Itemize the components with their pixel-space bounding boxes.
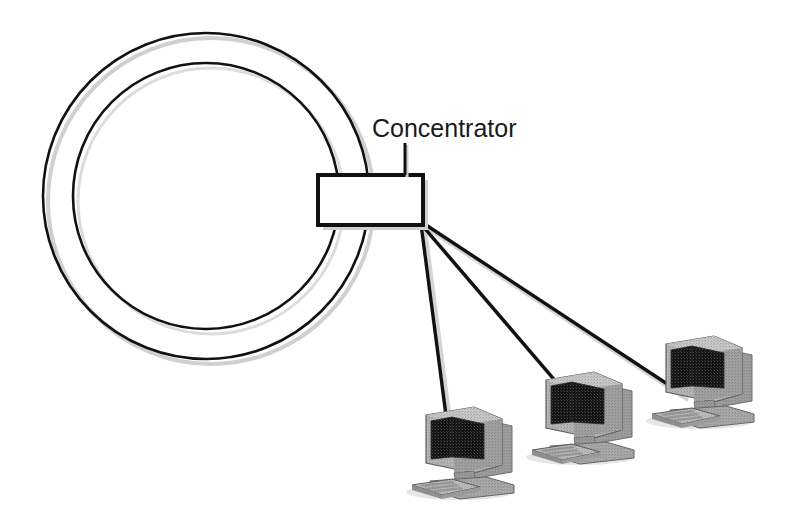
link-to-workstation-1 [421, 224, 447, 423]
workstation-1[interactable] [406, 407, 514, 500]
workstation-2[interactable] [526, 372, 634, 465]
concentrator-label-group: Concentrator [372, 114, 517, 177]
link-to-workstation-3 [423, 223, 684, 395]
link-to-workstation-3-shadow [427, 228, 688, 400]
concentrator-label: Concentrator [372, 114, 517, 142]
concentrator-node[interactable] [318, 175, 428, 230]
diagram-canvas: Concentrator [0, 0, 796, 520]
link-to-workstation-1-shadow [425, 229, 451, 428]
network-diagram: Concentrator [0, 0, 796, 520]
concentrator-box[interactable] [318, 175, 423, 225]
